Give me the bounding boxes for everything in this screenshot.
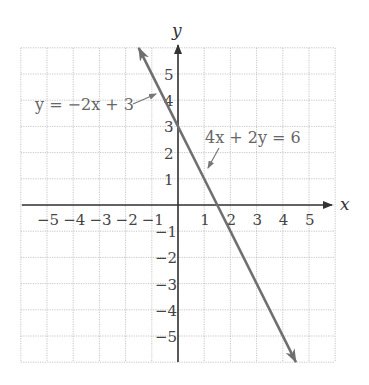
y-tick-label: 1	[164, 171, 174, 189]
equation-label-standard: 4x + 2y = 6	[205, 128, 301, 147]
y-tick-label: −2	[155, 249, 177, 267]
y-tick-label: −5	[155, 328, 177, 346]
pointer-arrow-1	[133, 94, 156, 104]
y-tick-label: 5	[164, 66, 174, 84]
x-tick-label: 4	[279, 211, 289, 229]
x-tick-label: −5	[37, 211, 59, 229]
coordinate-plane: x y −5−4−3−2−11234554321−1−2−3−4−5 y = −…	[0, 0, 369, 385]
y-tick-label: −1	[155, 223, 177, 241]
y-axis-label: y	[171, 20, 182, 40]
y-tick-label: 2	[164, 145, 174, 163]
x-tick-label: −2	[116, 211, 138, 229]
x-tick-label: −3	[89, 211, 111, 229]
pointer-arrow-2	[208, 148, 219, 168]
y-tick-label: −3	[155, 276, 177, 294]
x-axis-label: x	[340, 194, 350, 214]
y-tick-label: −4	[155, 302, 177, 320]
x-tick-label: 5	[305, 211, 315, 229]
x-tick-label: −4	[63, 211, 85, 229]
y-tick-label: 3	[164, 118, 174, 136]
equation-label-slope-intercept: y = −2x + 3	[34, 95, 134, 114]
x-tick-label: 3	[253, 211, 263, 229]
x-tick-label: 1	[200, 211, 210, 229]
